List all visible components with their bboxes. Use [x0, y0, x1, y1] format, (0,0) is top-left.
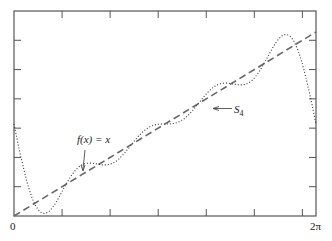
s4-label: S4 — [234, 103, 244, 118]
tick-marks — [14, 11, 316, 216]
series-f-x-dashed — [14, 32, 316, 216]
x-axis-label-0: 0 — [10, 220, 16, 232]
x-axis-label-2pi: 2π — [310, 220, 322, 232]
fourier-partial-sum-chart: 0 2π f(x) = x S4 — [0, 0, 332, 241]
annotation-s4: S4 — [213, 103, 244, 118]
plot-frame — [14, 11, 316, 216]
s4-label-subscript: 4 — [240, 109, 244, 118]
f-x-label: f(x) = x — [77, 133, 110, 146]
plot-border — [14, 11, 316, 216]
